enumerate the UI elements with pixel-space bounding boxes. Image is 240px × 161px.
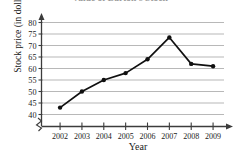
y-axis-arrow-icon (39, 13, 45, 20)
y-tick-label: 50 (28, 88, 36, 97)
x-tick-label: 2007 (161, 132, 177, 141)
data-point-marker (145, 57, 149, 61)
x-tick-label: 2003 (74, 132, 90, 141)
chart-figure: Value of Barton's Stock Stock price (in … (0, 0, 240, 161)
y-tick-labels: 404550556065707580 (28, 19, 36, 120)
data-point-marker (80, 89, 84, 93)
x-tick-labels: 20022003200420052006200720082009 (52, 132, 221, 141)
x-axis-arrow-icon (226, 124, 233, 130)
data-points (58, 35, 215, 110)
x-tick-label: 2006 (140, 132, 156, 141)
data-line (60, 37, 213, 107)
data-point-marker (211, 64, 215, 68)
x-tick-label: 2009 (205, 132, 221, 141)
data-point-marker (102, 78, 106, 82)
y-tick-label: 60 (28, 65, 36, 74)
x-tick-label: 2005 (118, 132, 134, 141)
data-point-marker (58, 105, 62, 109)
y-tick-label: 70 (28, 42, 36, 51)
y-tick-label: 45 (28, 99, 36, 108)
y-axis-break-icon (37, 118, 42, 131)
plot-area: 404550556065707580 200220032004200520062… (0, 0, 240, 161)
y-tick-label: 80 (28, 19, 36, 28)
x-tick-label: 2008 (183, 132, 199, 141)
data-point-marker (189, 62, 193, 66)
y-tick-label: 75 (28, 30, 36, 39)
data-point-marker (167, 35, 171, 39)
x-tick-label: 2004 (96, 132, 112, 141)
data-point-marker (123, 71, 127, 75)
x-tick-label: 2002 (52, 132, 68, 141)
y-tick-label: 40 (28, 111, 36, 120)
y-tick-label: 55 (28, 76, 36, 85)
y-tick-label: 65 (28, 53, 36, 62)
